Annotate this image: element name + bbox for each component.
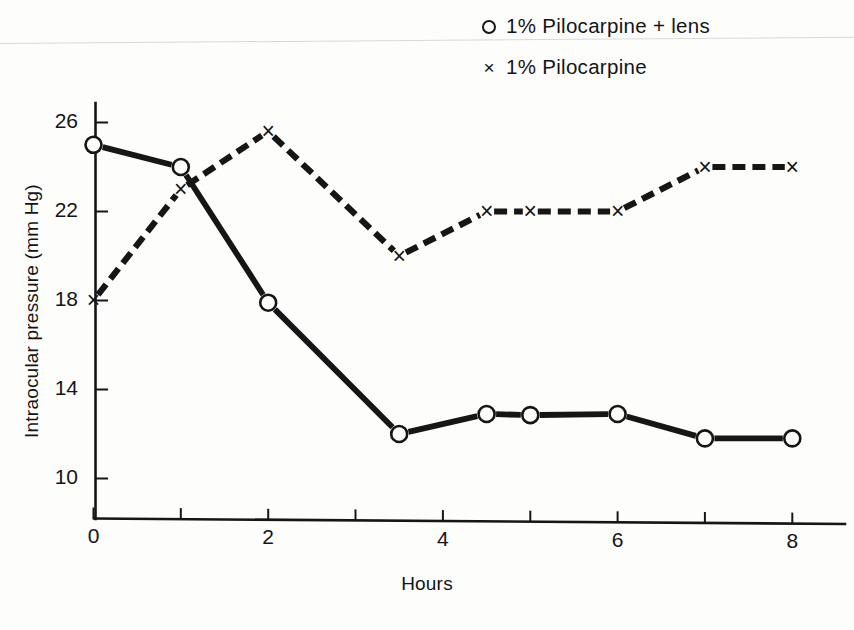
data-point-open-circle (86, 137, 102, 153)
data-point-open-circle (260, 295, 276, 311)
data-point-cross-x: × (392, 243, 405, 269)
x-tick-label: 6 (598, 528, 638, 552)
data-point-open-circle (173, 159, 189, 175)
y-tick-label: 26 (32, 109, 78, 133)
x-tick-label: 0 (74, 524, 114, 548)
series-segment (624, 170, 698, 208)
y-tick-label: 18 (32, 287, 78, 311)
data-point-open-circle (610, 406, 626, 422)
series-pilocarpine: ××××××××× (87, 118, 799, 313)
data-point-cross-x: × (87, 287, 100, 313)
plot-area: ××××××××× Intraocular pressure (mm Hg) H… (0, 0, 854, 630)
x-tick-label: 8 (772, 529, 812, 553)
data-point-open-circle (391, 426, 407, 442)
series-segment (409, 416, 478, 432)
data-point-open-circle (479, 406, 495, 422)
figure-container: 1% Pilocarpine + lens × 1% Pilocarpine ×… (0, 0, 854, 630)
series-segment (627, 417, 696, 436)
series-segment (186, 175, 263, 295)
x-tick-label: 4 (423, 527, 463, 551)
series-segment (275, 309, 393, 427)
series-segment (406, 215, 480, 253)
series-segment (274, 137, 394, 251)
series-segment (103, 147, 172, 165)
data-point-open-circle (697, 430, 713, 446)
y-tick-label: 10 (32, 465, 78, 489)
y-tick-label: 14 (32, 376, 78, 400)
axis-lines (94, 103, 845, 524)
data-point-cross-x: × (698, 154, 711, 180)
y-tick-label: 22 (32, 198, 78, 222)
data-point-open-circle (522, 407, 538, 423)
y-axis-label: Intraocular pressure (mm Hg) (21, 131, 43, 491)
data-point-open-circle (784, 430, 800, 446)
data-point-cross-x: × (786, 154, 799, 180)
data-point-cross-x: × (261, 118, 274, 144)
data-point-cross-x: × (480, 198, 493, 224)
series-segment (187, 136, 262, 186)
x-tick-label: 2 (248, 525, 288, 549)
series-pilocarpine-lens (86, 137, 801, 447)
series-segment (496, 414, 521, 415)
series-segment (98, 195, 176, 295)
data-point-cross-x: × (524, 198, 537, 224)
data-point-cross-x: × (611, 198, 624, 224)
x-axis-label: Hours (0, 573, 854, 595)
series-segment (540, 414, 608, 415)
data-point-cross-x: × (174, 176, 187, 202)
